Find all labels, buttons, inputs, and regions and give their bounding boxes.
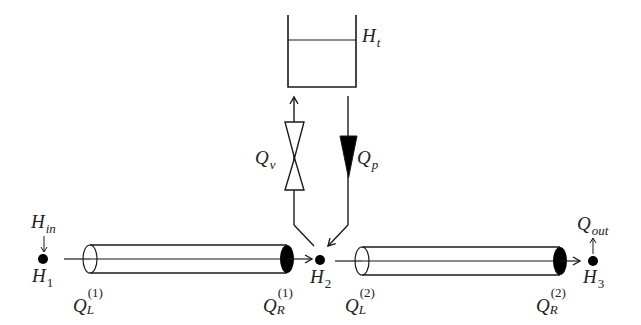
pipe-2-right-label: Q(2)R xyxy=(536,296,568,316)
outflow-label: Qout xyxy=(577,214,608,233)
node-h2-label: H2 xyxy=(310,267,331,286)
node-h3-label: H3 xyxy=(583,267,604,286)
tank xyxy=(288,15,356,87)
node-h1-label: H1 xyxy=(32,266,53,285)
pipe-1 xyxy=(64,245,312,273)
node-h2 xyxy=(315,255,325,265)
pipe-1-left-label: Q(1)L xyxy=(73,296,105,316)
valve-branch xyxy=(285,97,314,246)
pump-label: Qp xyxy=(357,148,378,167)
pump-icon xyxy=(340,136,357,178)
pump-branch xyxy=(328,96,357,246)
node-h3 xyxy=(588,256,598,266)
node-h1 xyxy=(38,254,48,264)
inflow-label: Hin xyxy=(31,212,56,231)
valve-label: Qv xyxy=(255,148,276,167)
tank-label: Ht xyxy=(362,26,380,45)
pipe-1-right-label: Q(1)R xyxy=(263,296,295,316)
valve-icon xyxy=(285,122,304,190)
pipe-2-left-label: Q(2)L xyxy=(345,296,377,316)
pipe-2 xyxy=(335,247,580,275)
